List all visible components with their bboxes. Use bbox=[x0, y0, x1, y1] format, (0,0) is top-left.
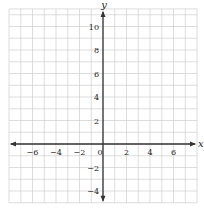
y-tick-label: 2 bbox=[94, 117, 99, 126]
x-tick-label: 2 bbox=[124, 148, 129, 157]
y-axis-label: y bbox=[100, 0, 107, 10]
y-tick-label: 10 bbox=[89, 23, 99, 32]
x-axis-label: x bbox=[198, 138, 204, 149]
x-tick-label: −2 bbox=[74, 148, 86, 157]
x-axis-arrow-right-icon bbox=[190, 142, 196, 147]
x-tick-label: 4 bbox=[147, 148, 152, 157]
y-tick-label: 6 bbox=[94, 70, 99, 79]
x-axis-arrow-left-icon bbox=[10, 142, 16, 147]
tick-labels: −6−4−20246108642−2−4 bbox=[27, 23, 176, 197]
x-tick-label: 0 bbox=[97, 148, 102, 157]
y-axis-arrow-up-icon bbox=[101, 11, 106, 17]
x-tick-label: −4 bbox=[50, 148, 62, 157]
x-tick-label: 6 bbox=[171, 148, 176, 157]
y-tick-label: 8 bbox=[94, 46, 99, 55]
y-tick-label: −2 bbox=[87, 164, 99, 173]
axes bbox=[10, 11, 196, 202]
y-tick-label: 4 bbox=[94, 93, 99, 102]
coordinate-plane: −6−4−20246108642−2−4 x y bbox=[0, 0, 204, 213]
x-tick-label: −6 bbox=[27, 148, 39, 157]
y-tick-label: −4 bbox=[87, 187, 99, 196]
y-axis-arrow-down-icon bbox=[101, 196, 106, 202]
